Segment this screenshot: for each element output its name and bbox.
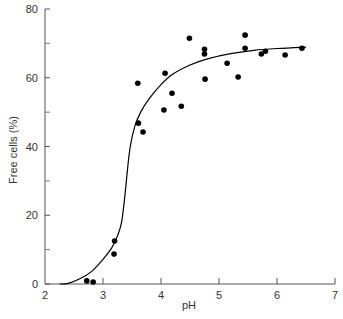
- data-point: [135, 80, 141, 86]
- y-axis-label: Free cells (%): [7, 116, 19, 184]
- y-tick-label: 0: [32, 278, 38, 290]
- data-point: [136, 120, 142, 126]
- data-point: [187, 35, 193, 41]
- data-point: [282, 52, 288, 58]
- y-tick-label: 80: [26, 3, 38, 15]
- data-point: [90, 279, 96, 285]
- y-tick-label: 40: [26, 141, 38, 153]
- data-point: [242, 32, 248, 38]
- data-points: [84, 32, 305, 284]
- data-point: [202, 51, 208, 57]
- x-tick-label: 6: [274, 289, 280, 301]
- data-point: [179, 103, 185, 109]
- data-point: [299, 45, 305, 51]
- data-point: [235, 74, 241, 80]
- data-point: [84, 278, 90, 284]
- x-tick-label: 4: [158, 289, 164, 301]
- data-point: [162, 70, 168, 76]
- data-point: [112, 238, 118, 244]
- data-point: [202, 76, 208, 82]
- chart: 020406080 234567 pH Free cells (%): [0, 0, 343, 319]
- data-point: [263, 48, 269, 54]
- fitted-curve-path: [60, 47, 307, 284]
- x-tick-label: 3: [100, 289, 106, 301]
- x-tick-label: 5: [216, 289, 222, 301]
- data-point: [169, 90, 175, 96]
- x-tick-label: 2: [42, 289, 48, 301]
- y-tick-label: 60: [26, 72, 38, 84]
- fitted-curve: [60, 47, 307, 284]
- data-point: [140, 129, 146, 135]
- y-axis: 020406080: [26, 3, 50, 290]
- y-tick-label: 20: [26, 209, 38, 221]
- data-point: [161, 107, 167, 113]
- data-point: [202, 46, 208, 52]
- x-axis-label: pH: [182, 299, 196, 311]
- data-point: [224, 61, 230, 67]
- data-point: [111, 251, 117, 257]
- x-tick-label: 7: [332, 289, 338, 301]
- data-point: [242, 45, 248, 51]
